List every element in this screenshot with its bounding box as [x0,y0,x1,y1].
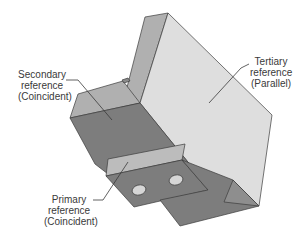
tertiary-label: Tertiary reference (Parallel) [250,56,292,89]
primary-label: Primary reference (Coincident) [44,194,94,227]
secondary-label: Secondary reference (Coincident) [18,69,66,102]
